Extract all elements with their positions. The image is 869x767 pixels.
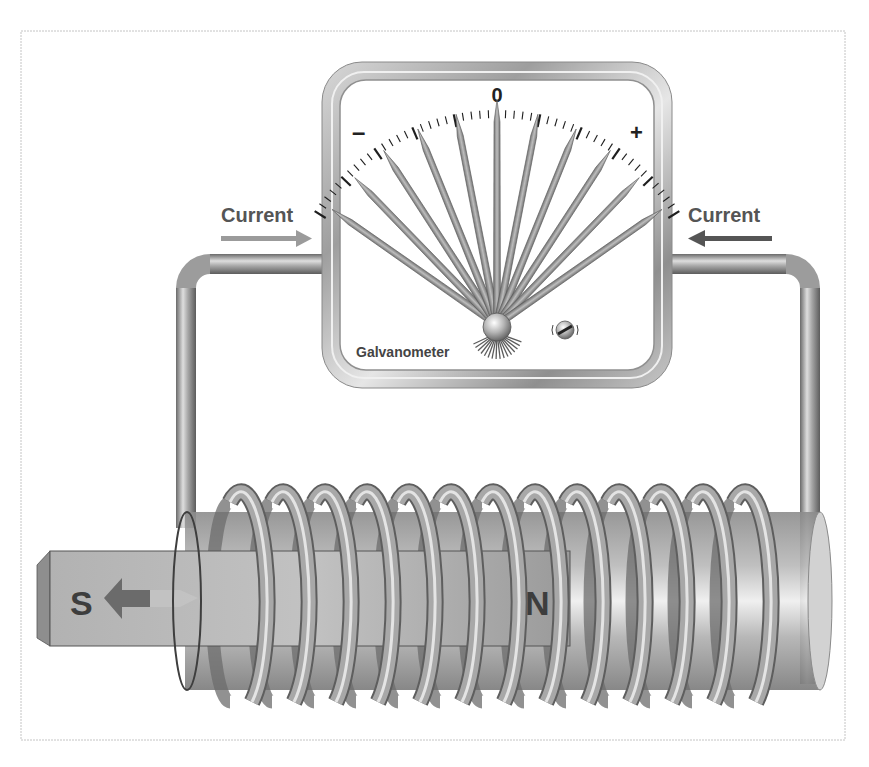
scale-negative-label: –: [352, 118, 365, 145]
scale-minor-tick: [480, 111, 481, 119]
south-pole-label: S: [70, 584, 93, 622]
needle: [494, 100, 501, 325]
pivot-cap: [483, 313, 511, 341]
current-right: Current: [688, 204, 772, 247]
current-right-label: Current: [688, 204, 761, 226]
scale-minor-tick: [514, 111, 515, 119]
north-pole-label: N: [525, 584, 550, 622]
galvanometer: 0 – + Galvanometer: [315, 62, 680, 388]
current-left-label: Current: [221, 204, 294, 226]
galvanometer-label: Galvanometer: [356, 344, 450, 360]
scale-positive-label: +: [630, 120, 643, 145]
induction-diagram: S N 0 – + Galvanometer Current: [0, 0, 869, 767]
